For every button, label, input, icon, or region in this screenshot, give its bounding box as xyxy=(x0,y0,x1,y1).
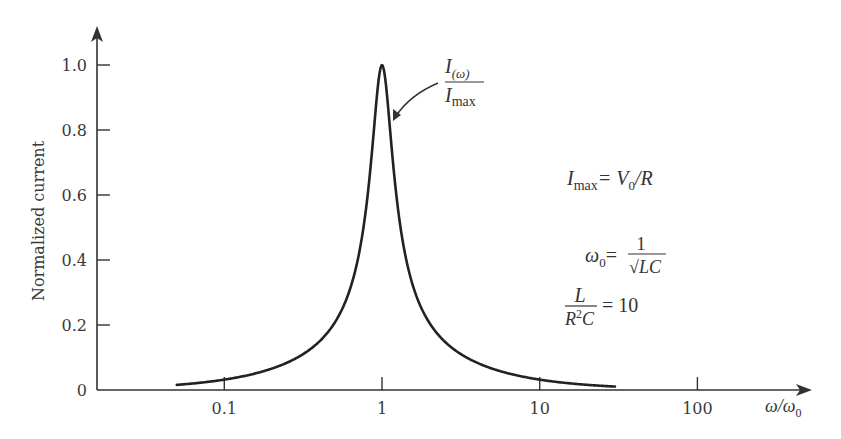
svg-text:√LC: √LC xyxy=(629,257,662,277)
y-tick-label: 0.8 xyxy=(62,121,87,140)
equation-ratio: L R2C = 10 xyxy=(564,284,638,329)
y-tick-label: 0.4 xyxy=(62,251,87,270)
equation-omega0: ω0= 1 √LC xyxy=(585,234,666,277)
x-tick-label: 0.1 xyxy=(212,399,237,418)
svg-text:= 10: = 10 xyxy=(602,294,638,316)
x-axis-title-sub: 0 xyxy=(795,406,801,420)
y-axis: 00.20.40.60.81.0 xyxy=(62,26,110,400)
x-tick-label: 100 xyxy=(682,399,713,418)
curve-label: I(ω) Imax xyxy=(393,55,484,121)
svg-text:1: 1 xyxy=(637,234,646,254)
x-axis-title-den: ω xyxy=(783,396,796,416)
y-tick-label: 0.6 xyxy=(62,186,87,205)
pointer-arrow xyxy=(396,83,438,116)
x-tick-label: 10 xyxy=(530,399,550,418)
svg-text:L: L xyxy=(573,284,585,306)
resonance-chart: 00.20.40.60.81.0 0.1110100 Normalized cu… xyxy=(0,0,841,439)
x-axis-title-num: ω xyxy=(765,396,778,416)
y-tick-label: 0 xyxy=(77,381,87,400)
svg-text:ω0=: ω0= xyxy=(585,244,617,270)
equation-imax: Imax= V0/R xyxy=(566,167,653,193)
y-tick-label: 1.0 xyxy=(62,56,87,75)
svg-text:Imax= V0/R: Imax= V0/R xyxy=(566,167,653,193)
svg-text:I(ω): I(ω) xyxy=(444,55,470,81)
svg-text:R2C: R2C xyxy=(564,307,595,329)
svg-text:Imax: Imax xyxy=(444,84,476,109)
x-axis-title: ω/ω0 xyxy=(765,396,801,420)
svg-text:ω/ω0: ω/ω0 xyxy=(765,396,801,420)
y-tick-label: 0.2 xyxy=(62,316,87,335)
x-tick-label: 1 xyxy=(377,399,387,418)
y-axis-title: Normalized current xyxy=(29,140,48,301)
